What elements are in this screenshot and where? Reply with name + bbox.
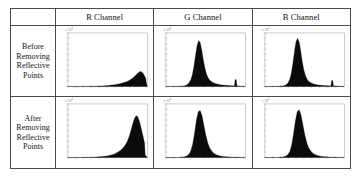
row-label-after-line-4: Points <box>11 142 55 152</box>
row-label-before-line-1: Before <box>11 42 55 52</box>
column-header-r: R Channel <box>56 9 154 26</box>
rgb-histogram-figure: R Channel G Channel B Channel Before Rem… <box>10 8 350 168</box>
table-row-before: Before Removing Reflective Points x 104 … <box>11 26 351 97</box>
row-label-before-line-3: Reflective <box>11 61 55 71</box>
table-header-row: R Channel G Channel B Channel <box>11 9 351 26</box>
row-label-after-line-1: After <box>11 114 55 124</box>
histogram-cell-b-after: x 104 <box>252 97 350 168</box>
row-label-after: After Removing Reflective Points <box>11 97 56 168</box>
y-axis-exponent-label: x 104 <box>65 27 73 32</box>
column-header-b: B Channel <box>252 9 350 26</box>
histogram-cell-b-before: x 104 <box>252 26 350 97</box>
table-row-after: After Removing Reflective Points x 104 x… <box>11 97 351 168</box>
plot-g-before: x 104 <box>154 26 251 96</box>
plot-b-after: x 104 <box>253 97 350 167</box>
y-axis-exponent-label: x 104 <box>163 27 171 32</box>
y-axis-exponent-label: x 104 <box>262 98 270 103</box>
y-axis-exponent-label: x 104 <box>65 98 73 103</box>
row-label-after-line-2: Removing <box>11 123 55 133</box>
histogram-cell-r-before: x 104 <box>56 26 154 97</box>
histogram-cell-g-after: x 104 <box>154 97 252 168</box>
row-label-after-line-3: Reflective <box>11 133 55 143</box>
plot-r-after: x 104 <box>56 97 153 167</box>
histogram-cell-g-before: x 104 <box>154 26 252 97</box>
corner-cell <box>11 9 56 26</box>
histogram-cell-r-after: x 104 <box>56 97 154 168</box>
y-axis-exponent-label: x 104 <box>262 27 270 32</box>
plot-g-after: x 104 <box>154 97 251 167</box>
row-label-before-line-4: Points <box>11 71 55 81</box>
plot-b-before: x 104 <box>253 26 350 96</box>
row-label-before: Before Removing Reflective Points <box>11 26 56 97</box>
column-header-g: G Channel <box>154 9 252 26</box>
y-axis-exponent-label: x 104 <box>163 98 171 103</box>
plot-r-before: x 104 <box>56 26 153 96</box>
comparison-table: R Channel G Channel B Channel Before Rem… <box>10 8 351 169</box>
row-label-before-line-2: Removing <box>11 52 55 62</box>
